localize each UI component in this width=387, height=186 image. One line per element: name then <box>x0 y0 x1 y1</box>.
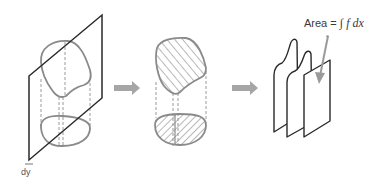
solid-top-surface <box>41 41 91 97</box>
integral-lower-limit: a <box>326 33 329 38</box>
figure-hatched-solid <box>155 38 206 148</box>
figure-solid-with-plane <box>25 15 102 164</box>
dashed-projection-lines <box>41 42 90 146</box>
area-formula-label: Area = ∫ f dx <box>304 16 364 31</box>
hatched-top-surface <box>156 38 206 94</box>
integral-symbol: ∫ <box>340 16 343 30</box>
figure-stacked-slices <box>274 39 330 137</box>
arrow-2-icon <box>232 81 258 95</box>
solid-base-region <box>41 116 90 146</box>
hatched-base-region <box>155 114 206 145</box>
area-prefix: Area = <box>304 17 340 29</box>
thickness-label-dy: dy <box>21 167 31 177</box>
integrand: f dx <box>346 16 364 30</box>
arrow-1-icon <box>114 81 140 95</box>
